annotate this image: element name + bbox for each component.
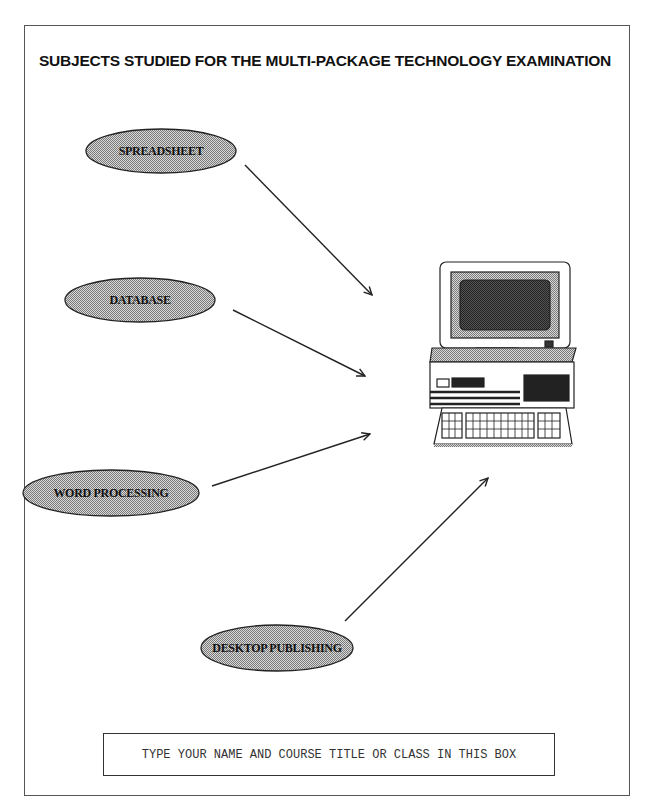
name-box-instruction: TYPE YOUR NAME AND COURSE TITLE OR CLASS…: [142, 748, 516, 762]
arrow-word-processing: [212, 434, 370, 486]
arrow-desktop-publishing: [345, 478, 488, 621]
arrow-spreadsheet: [245, 165, 372, 295]
computer-icon: [430, 262, 576, 447]
subject-label-spreadsheet: SPREADSHEET: [119, 144, 204, 159]
name-course-box[interactable]: TYPE YOUR NAME AND COURSE TITLE OR CLASS…: [103, 733, 555, 776]
diagram: [0, 0, 650, 811]
subject-label-database: DATABASE: [109, 293, 170, 308]
arrow-database: [233, 310, 365, 376]
subject-label-word-processing: WORD PROCESSING: [53, 486, 168, 501]
subject-label-desktop-publishing: DESKTOP PUBLISHING: [212, 641, 341, 656]
